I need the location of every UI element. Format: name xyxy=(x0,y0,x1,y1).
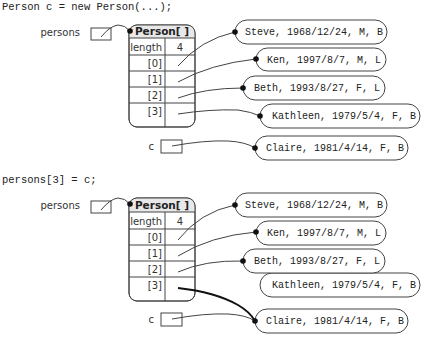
person-object-text: Claire, 1981/4/14, F, B xyxy=(266,143,404,154)
person-array: Person[ ] length 4 [0] [1] [2] [3] xyxy=(129,198,195,301)
person-object-text: Ken, 1997/8/7, M, L xyxy=(267,228,381,239)
code-line: Person c = new Person(...); xyxy=(2,1,172,13)
c-label: c xyxy=(149,141,155,152)
person-object-text: Beth, 1993/8/27, F, L xyxy=(254,256,380,267)
c-variable-box xyxy=(161,140,182,153)
index-label: [2] xyxy=(148,90,162,101)
array-header: Person[ ] xyxy=(135,25,189,37)
code-line: persons[3] = c; xyxy=(2,174,97,186)
length-label: length xyxy=(130,42,162,53)
person-object-text: Ken, 1997/8/7, M, L xyxy=(267,55,381,66)
person-object-text: Steve, 1968/12/24, M, B xyxy=(245,200,383,211)
index-label: [3] xyxy=(148,280,162,291)
index-label: [1] xyxy=(148,74,162,85)
c-label: c xyxy=(149,314,155,325)
persons-label: persons xyxy=(41,200,81,211)
diagram-before: Person c = new Person(...); persons Pers… xyxy=(2,1,420,160)
person-object-text: Beth, 1993/8/27, F, L xyxy=(254,83,380,94)
memory-diagram: Person c = new Person(...); persons Pers… xyxy=(0,0,436,346)
persons-label: persons xyxy=(41,27,81,38)
c-variable-box xyxy=(161,313,182,326)
index-label: [0] xyxy=(148,232,162,243)
length-value: 4 xyxy=(177,216,183,227)
index-label: [3] xyxy=(148,106,162,117)
index-label: [2] xyxy=(148,264,162,275)
length-value: 4 xyxy=(177,42,183,53)
index-label: [0] xyxy=(148,58,162,69)
person-array: Person[ ] length 4 [0] [1] [2] [3] xyxy=(129,25,195,127)
person-object-text: Claire, 1981/4/14, F, B xyxy=(266,316,404,327)
diagram-after: persons[3] = c; persons Person[ ] length… xyxy=(2,174,420,333)
person-object-text: Kathleen, 1979/5/4, F, B xyxy=(272,111,416,122)
index-label: [1] xyxy=(148,248,162,259)
person-object-text: Steve, 1968/12/24, M, B xyxy=(245,27,383,38)
length-label: length xyxy=(130,216,162,227)
array-header: Person[ ] xyxy=(135,199,189,211)
person-object-text: Kathleen, 1979/5/4, F, B xyxy=(272,280,416,291)
